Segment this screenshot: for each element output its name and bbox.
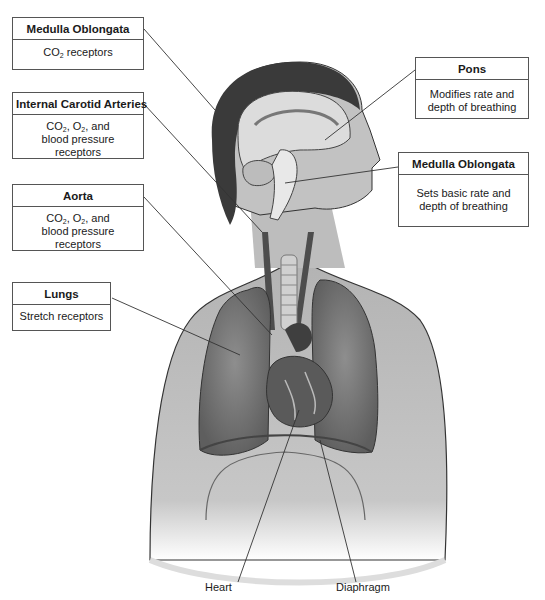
label-body: Sets basic rate and depth of breathing: [399, 175, 528, 219]
label-lungs: Lungs Stretch receptors: [12, 282, 111, 331]
label-body: CO2 receptors: [13, 40, 143, 65]
label-body: Stretch receptors: [13, 305, 110, 329]
label-line: depth of breathing: [420, 101, 524, 114]
label-line: Modifies rate and: [420, 88, 524, 101]
label-line: blood pressure: [17, 225, 139, 238]
label-body: Modifies rate and depth of breathing: [416, 80, 528, 120]
label-header: Medulla Oblongata: [399, 153, 528, 175]
label-diaphragm: Diaphragm: [336, 581, 390, 593]
label-internal-carotid-arteries: Internal Carotid Arteries CO2, O2, and b…: [12, 92, 144, 159]
trachea: [281, 255, 297, 330]
label-line: Sets basic rate and: [403, 187, 524, 200]
label-header: Aorta: [13, 185, 143, 207]
respiratory-diagram: Medulla Oblongata CO2 receptors Internal…: [0, 0, 545, 600]
label-header: Internal Carotid Arteries: [13, 93, 143, 115]
label-line: Stretch receptors: [17, 310, 106, 323]
label-header: Pons: [416, 58, 528, 80]
label-line: CO2, O2, and: [17, 212, 139, 225]
head: [212, 62, 380, 225]
label-line: CO2 receptors: [17, 46, 139, 59]
label-header: Medulla Oblongata: [13, 18, 143, 40]
label-body: CO2, O2, and blood pressure receptors: [13, 115, 143, 165]
label-line: receptors: [17, 146, 139, 159]
label-line: blood pressure: [17, 133, 139, 146]
label-medulla-oblongata-receptors: Medulla Oblongata CO2 receptors: [12, 17, 144, 70]
label-aorta: Aorta CO2, O2, and blood pressure recept…: [12, 184, 144, 251]
label-line: CO2, O2, and: [17, 120, 139, 133]
label-medulla-oblongata-rate: Medulla Oblongata Sets basic rate and de…: [398, 152, 529, 227]
label-line: depth of breathing: [403, 200, 524, 213]
label-pons: Pons Modifies rate and depth of breathin…: [415, 57, 529, 119]
label-header: Lungs: [13, 283, 110, 305]
label-line: receptors: [17, 238, 139, 251]
label-heart: Heart: [205, 581, 232, 593]
label-body: CO2, O2, and blood pressure receptors: [13, 207, 143, 257]
